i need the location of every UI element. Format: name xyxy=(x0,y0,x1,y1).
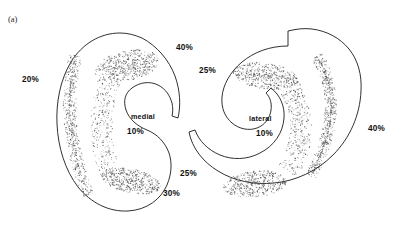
left-label-30-percent: 30% xyxy=(163,189,181,198)
right-label-10-percent: 10% xyxy=(256,129,274,138)
right-label-25-percent-top: 25% xyxy=(199,66,217,75)
right-label-25-percent-bottom: 25% xyxy=(180,169,198,178)
panel-label: (a) xyxy=(8,14,18,24)
right-label-lateral: lateral xyxy=(249,114,272,123)
left-label-20-percent: 20% xyxy=(22,75,40,84)
figure-panel-a: (a) 20% 40% medial 10% 30% 25% lateral 1… xyxy=(0,0,411,245)
left-label-medial: medial xyxy=(131,112,155,121)
right-section-outline xyxy=(189,29,361,184)
right-label-40-percent: 40% xyxy=(368,124,386,133)
anatomical-cross-section-diagram: (a) 20% 40% medial 10% 30% 25% lateral 1… xyxy=(0,0,411,245)
left-label-10-percent: 10% xyxy=(127,127,145,136)
left-label-40-percent: 40% xyxy=(176,43,194,52)
right-section-group xyxy=(189,29,361,198)
left-section-group xyxy=(57,33,180,211)
